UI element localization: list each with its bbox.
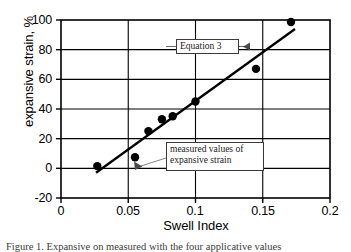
ytick-label-0: 0 bbox=[12, 161, 52, 175]
xtick-label-005: 0.05 bbox=[106, 204, 150, 218]
xtick-label-015: 0.15 bbox=[241, 204, 285, 218]
y-axis-title: expansive strain, % bbox=[21, 0, 36, 162]
xtick-label-01: 0.1 bbox=[173, 204, 217, 218]
annotation-equation-3: Equation 3 bbox=[176, 39, 239, 54]
x-axis-title: Swell Index bbox=[61, 218, 331, 233]
xtick-label-02: 0.2 bbox=[308, 204, 351, 218]
xtick-label-0: 0 bbox=[39, 204, 83, 218]
annotation-measured-values: measured values of expansive strain bbox=[166, 142, 264, 171]
ytick-label-neg20: -20 bbox=[12, 191, 52, 205]
figure-caption: Figure 1. Expansive on measured with the… bbox=[6, 241, 346, 252]
